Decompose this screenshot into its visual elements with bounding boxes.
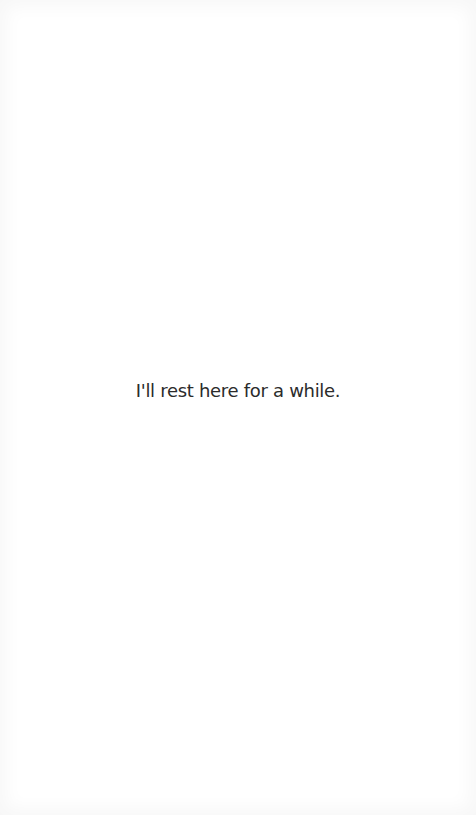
- page-canvas: I'll rest here for a while.: [0, 0, 476, 815]
- rest-message: I'll rest here for a while.: [0, 378, 476, 404]
